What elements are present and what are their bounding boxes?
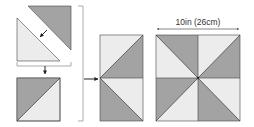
step-3-column — [100, 35, 143, 121]
dimension-annotation: 10in (26cm) — [157, 17, 239, 29]
steps-bracket — [78, 6, 98, 121]
pinwheel-assembly-diagram: 10in (26cm) — [0, 0, 254, 127]
step-2-hst-unit — [17, 78, 60, 121]
step-1-bracket — [17, 62, 71, 74]
dimension-label: 10in (26cm) — [176, 17, 221, 27]
join-arrow-icon — [40, 30, 47, 37]
step-4-pinwheel-block — [156, 35, 240, 121]
step-1-triangles — [17, 6, 71, 61]
